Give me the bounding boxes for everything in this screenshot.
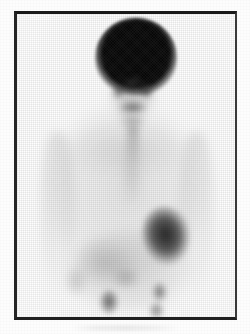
face-uptake-halo	[101, 74, 165, 120]
neck-midline-activity	[127, 126, 139, 164]
scintigram-frame	[14, 11, 237, 320]
caption-smudge	[72, 325, 180, 331]
scintigram-image	[17, 14, 235, 317]
scan-page	[0, 0, 250, 334]
liver-upper-abdomen	[73, 240, 143, 292]
